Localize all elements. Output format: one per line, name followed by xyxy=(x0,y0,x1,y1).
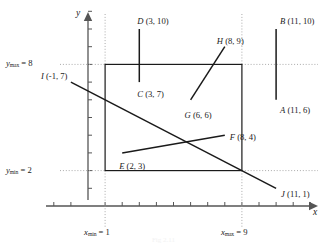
point-coords-e: (2, 3) xyxy=(124,161,145,171)
y-max-value: = 8 xyxy=(21,58,32,68)
point-label-a: A (11, 6) xyxy=(280,106,310,115)
point-coords-i: (-1, 7) xyxy=(44,71,68,81)
point-coords-j: (11, 1) xyxy=(285,189,310,199)
point-coords-a: (11, 6) xyxy=(285,105,310,115)
segment-ef xyxy=(122,135,225,153)
geometry-plot xyxy=(0,0,327,248)
y-min-subscript: min xyxy=(10,169,18,175)
figure-canvas: y x ymax = 8 ymin = 2 xmin = 1 xmax = 9 … xyxy=(0,0,327,248)
y-min-value: = 2 xyxy=(20,165,31,175)
segment-gh xyxy=(191,47,225,100)
point-label-f: F (8, 4) xyxy=(230,133,256,142)
point-label-i: I (-1, 7) xyxy=(41,72,68,81)
point-label-d: D (3, 10) xyxy=(137,17,168,26)
y-min-bound-label: ymin = 2 xyxy=(6,166,32,176)
clip-rectangle xyxy=(105,64,242,170)
x-axis-label: x xyxy=(313,207,317,217)
axis-lines-group xyxy=(46,12,318,210)
point-coords-f: (8, 4) xyxy=(235,132,256,142)
point-label-g: G (6, 6) xyxy=(185,111,212,120)
axis-ticks-group xyxy=(54,11,311,206)
y-axis-label: y xyxy=(76,8,80,18)
point-label-b: B (11, 10) xyxy=(280,17,314,26)
segments-group xyxy=(71,29,276,188)
y-axis-arrowhead xyxy=(84,12,92,21)
point-coords-h: (8, 9) xyxy=(223,36,244,46)
point-coords-b: (11, 10) xyxy=(285,16,314,26)
y-max-subscript: max xyxy=(10,62,19,68)
guide-lines-group xyxy=(60,14,318,228)
clip-rectangle-outline xyxy=(105,64,242,170)
point-coords-c: (3, 7) xyxy=(143,89,164,99)
point-coords-g: (6, 6) xyxy=(191,110,212,120)
figure-caption: Fig 2.11 xyxy=(0,236,327,244)
y-max-bound-label: ymax = 8 xyxy=(6,59,33,69)
point-label-j: J (11, 1) xyxy=(281,190,310,199)
point-label-h: H (8, 9) xyxy=(217,37,244,46)
point-label-e: E (2, 3) xyxy=(119,162,145,171)
point-coords-d: (3, 10) xyxy=(144,16,169,26)
point-label-c: C (3, 7) xyxy=(137,90,164,99)
